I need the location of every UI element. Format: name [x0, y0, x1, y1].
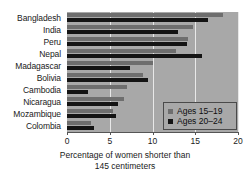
bar-group	[67, 24, 238, 36]
caption-line-2: 145 centimeters	[20, 161, 230, 172]
bar	[67, 18, 208, 22]
y-axis-label: Nicaragua	[23, 96, 61, 108]
x-tick-label: 5	[98, 136, 122, 146]
bar	[67, 114, 116, 118]
gridline-20	[238, 12, 239, 132]
bar	[67, 25, 193, 29]
bar	[67, 109, 113, 113]
bar	[67, 42, 187, 46]
bar-group	[67, 36, 238, 48]
x-tick-mark	[67, 132, 68, 135]
bar	[67, 102, 118, 106]
bar-chart-figure: BangladeshIndiaPeruNepalMadagascarBolivi…	[0, 0, 248, 185]
bar-group	[67, 12, 238, 24]
legend-swatch-icon	[168, 109, 173, 114]
bar	[67, 66, 130, 70]
legend-item[interactable]: Ages 15–19	[168, 106, 232, 116]
bar-group	[67, 84, 238, 96]
legend-swatch-icon	[168, 119, 173, 124]
x-tick-label: 0	[55, 136, 79, 146]
bar	[67, 78, 148, 82]
bar	[67, 49, 176, 53]
bar	[67, 90, 88, 94]
bar	[67, 13, 223, 17]
x-axis-caption: Percentage of women shorter than 145 cen…	[20, 150, 230, 172]
x-tick-mark	[110, 132, 111, 135]
chart-legend: Ages 15–19Ages 20–24	[163, 102, 237, 130]
y-axis-label: Madagascar	[15, 60, 61, 72]
bar	[67, 73, 143, 77]
legend-item[interactable]: Ages 20–24	[168, 116, 232, 126]
bar	[67, 37, 188, 41]
x-tick-mark	[195, 132, 196, 135]
bar-group	[67, 60, 238, 72]
y-axis-label: Nepal	[39, 48, 61, 60]
x-tick-label: 15	[183, 136, 207, 146]
y-axis-label: Mozambique	[13, 108, 61, 120]
bar	[67, 61, 153, 65]
y-axis-label: Bolivia	[37, 72, 61, 84]
legend-label: Ages 20–24	[177, 116, 222, 126]
caption-line-1: Percentage of women shorter than	[20, 150, 230, 161]
bar	[67, 121, 91, 125]
bar	[67, 54, 202, 58]
bar	[67, 126, 94, 130]
y-axis-category-labels: BangladeshIndiaPeruNepalMadagascarBolivi…	[0, 12, 64, 132]
bar	[67, 30, 178, 34]
legend-label: Ages 15–19	[177, 106, 222, 116]
y-axis-label: Cambodia	[23, 84, 61, 96]
y-axis-label: Bangladesh	[17, 12, 61, 24]
x-tick-label: 20	[226, 136, 248, 146]
bar	[67, 85, 127, 89]
y-axis-label: India	[43, 24, 61, 36]
x-tick-label: 10	[141, 136, 165, 146]
x-tick-mark	[153, 132, 154, 135]
bar-group	[67, 72, 238, 84]
y-axis-label: Colombia	[26, 120, 61, 132]
bar	[67, 97, 124, 101]
bar-group	[67, 48, 238, 60]
y-axis-label: Peru	[43, 36, 61, 48]
x-tick-mark	[238, 132, 239, 135]
